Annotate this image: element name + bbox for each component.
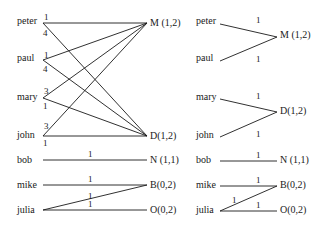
node-mike: mike	[196, 179, 217, 190]
weight-john-D: 1	[43, 138, 48, 148]
left-graph: peter paul mary john bob mike julia M (1…	[16, 12, 181, 216]
bipartite-graphs: peter paul mary john bob mike julia M (1…	[0, 0, 325, 228]
node-D: D(1,2)	[280, 105, 306, 117]
node-M: M (1,2)	[150, 17, 181, 29]
edge-paul-M	[43, 23, 147, 60]
weight-julia-O: 1	[256, 200, 261, 210]
right-graph: peter paul mary john bob mike julia M (1…	[195, 15, 311, 216]
weight-peter-M: 1	[44, 12, 49, 22]
edge-julia-B	[43, 185, 147, 210]
node-O: O(0,2)	[280, 204, 306, 216]
weight-paul-D: 4	[43, 64, 48, 74]
weight-mary-M: 3	[44, 86, 49, 96]
edge-mary-D	[220, 99, 277, 112]
node-mike: mike	[17, 179, 38, 190]
node-peter: peter	[196, 15, 217, 26]
node-N: N (1,1)	[280, 154, 309, 166]
weight-paul-M: 1	[256, 54, 261, 64]
node-M: M (1,2)	[280, 29, 311, 41]
node-O: O(0,2)	[150, 204, 176, 216]
weight-paul-M: 1	[44, 50, 49, 60]
weight-bob-N: 1	[256, 150, 261, 160]
node-john: john	[195, 129, 214, 140]
edge-peter-M	[220, 24, 277, 37]
weight-mary-D: 1	[43, 101, 48, 111]
weight-mary-D: 1	[256, 91, 261, 101]
weight-bob-N: 1	[88, 149, 93, 159]
edge-paul-D	[43, 60, 147, 136]
weight-julia-B: 1	[232, 195, 237, 205]
node-peter: peter	[17, 15, 38, 26]
node-B: B(0,2)	[280, 179, 306, 191]
weight-john-M: 3	[44, 121, 49, 131]
weight-mike-B: 1	[256, 175, 261, 185]
node-mary: mary	[17, 91, 38, 102]
edge-julia-B	[220, 186, 277, 211]
node-mary: mary	[196, 91, 217, 102]
node-julia: julia	[195, 204, 214, 215]
weight-peter-M: 1	[256, 15, 261, 25]
edge-mary-M	[43, 23, 147, 98]
weight-peter-D: 4	[43, 28, 48, 38]
weight-john-D: 1	[256, 129, 261, 139]
node-julia: julia	[16, 204, 35, 215]
weight-julia-O: 1	[88, 199, 93, 209]
node-bob: bob	[196, 154, 211, 165]
node-john: john	[16, 129, 35, 140]
edge-paul-M	[220, 37, 277, 61]
node-paul: paul	[17, 52, 34, 63]
edge-john-D	[220, 112, 277, 137]
node-D: D(1,2)	[150, 130, 176, 142]
weight-mike-B: 1	[88, 174, 93, 184]
node-bob: bob	[17, 154, 32, 165]
node-B: B(0,2)	[150, 179, 176, 191]
node-paul: paul	[196, 52, 213, 63]
edge-mary-D	[43, 98, 147, 136]
node-N: N (1,1)	[150, 154, 179, 166]
